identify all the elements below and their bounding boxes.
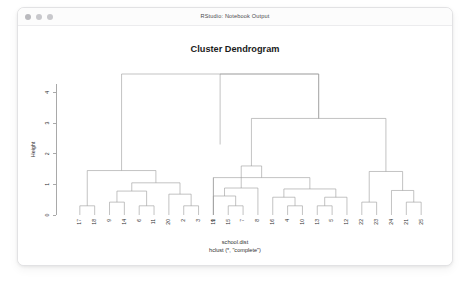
leaf-label: 10 [299,219,305,225]
leaf-label: 24 [388,219,394,225]
dendrogram-branches [80,74,421,215]
dendrogram-branch [273,197,295,215]
leaf-label: 9 [106,219,112,222]
cluster-dendrogram-plot: Cluster Dendrogram 01234 Height 17189146… [18,26,452,266]
dendrogram-branch [184,206,199,215]
leaf-label: 12 [343,219,349,225]
leaf-label: 3 [195,219,201,222]
dendrogram-branch [87,171,156,206]
y-axis: 01234 Height [30,84,56,217]
dendrogram-branch [110,202,125,215]
y-axis-tick-label: 0 [44,213,50,216]
dendrogram-branch [284,189,336,197]
dendrogram-branch [220,74,319,145]
leaf-label: 8 [254,219,260,222]
y-axis-tick-label: 1 [44,183,50,186]
leaf-label: 15 [225,219,231,225]
dendrogram-branch [139,206,154,215]
y-axis-title: Height [30,141,36,157]
dendrogram-branch [325,197,347,215]
leaf-label: 13 [314,219,320,225]
leaf-label: 7 [239,219,245,222]
notebook-output-window: RStudio: Notebook Output Cluster Dendrog… [17,7,453,266]
leaf-labels: 1718914611202319157816410135122223242125… [76,219,423,225]
leaf-label: 4 [284,219,290,222]
leaf-label: 14 [121,219,127,225]
y-axis-tick-label: 2 [44,152,50,155]
dendrogram-branch [80,206,95,215]
dendrogram-branch [225,188,258,215]
dendrogram-branch [288,206,303,215]
dendrogram-branch [132,183,180,194]
plot-area: Cluster Dendrogram 01234 Height 17189146… [18,26,452,266]
dendrogram-branch [251,118,385,171]
dendrogram-branch [213,196,235,215]
chart-title: Cluster Dendrogram [191,44,280,54]
leaf-label: 5 [328,219,334,222]
dendrogram-branch [241,166,261,188]
dendrogram-branch [213,178,309,215]
window-titlebar: RStudio: Notebook Output [18,8,452,26]
dendrogram-branch [117,191,147,206]
leaf-label: 22 [358,219,364,225]
dendrogram-branch [391,190,413,215]
dendrogram-branch [362,202,377,215]
leaf-label: 6 [136,219,142,222]
y-axis-tick-label: 3 [44,121,50,124]
leaf-label: 1 [210,219,216,222]
leaf-label: 21 [403,219,409,225]
y-axis-ticks: 01234 [44,91,56,217]
leaf-label: 11 [150,219,156,224]
dendrogram-branch [369,171,402,202]
dendrogram-branch [317,206,332,215]
x-axis-label: school.dist [222,239,249,245]
leaf-label: 25 [418,219,424,225]
plot-caption: hclust (*, "complete") [209,247,261,253]
y-axis-tick-label: 4 [44,91,50,94]
leaf-label: 18 [91,219,97,225]
window-title: RStudio: Notebook Output [18,13,452,19]
leaf-label: 20 [165,219,171,225]
leaf-label: 23 [373,219,379,225]
leaf-label: 2 [180,219,186,222]
dendrogram-branch [406,202,421,215]
leaf-label: 16 [269,219,275,225]
dendrogram-branch [228,206,243,215]
leaf-label: 17 [76,219,82,225]
dendrogram-branch [169,194,191,215]
